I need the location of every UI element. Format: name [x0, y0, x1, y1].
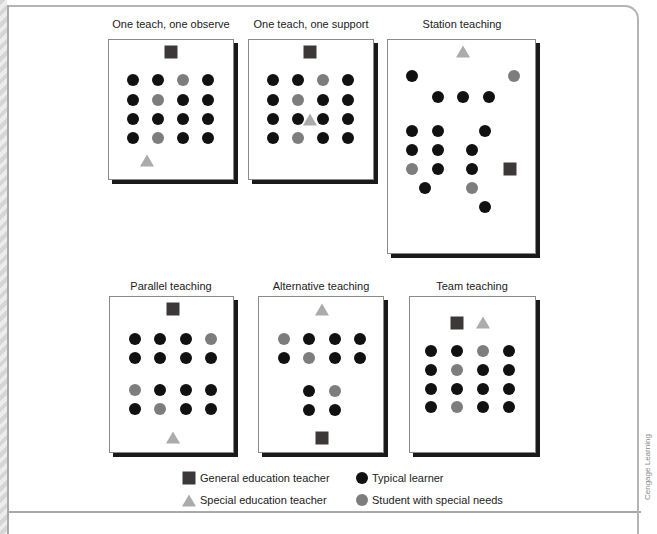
typical-learner-dot: [425, 401, 437, 413]
typical-learner-dot: [180, 333, 192, 345]
typical-learner-dot: [205, 384, 217, 396]
legend-gray-circle-icon: [356, 494, 368, 506]
typical-learner-dot: [425, 383, 437, 395]
typical-learner-dot: [329, 352, 341, 364]
general-teacher-square-icon: [304, 46, 317, 59]
typical-learner-dot: [477, 364, 489, 376]
typical-learner-dot: [317, 94, 329, 106]
legend-label-special-needs: Student with special needs: [372, 494, 503, 506]
typical-learner-dot: [154, 384, 166, 396]
student-special-needs-dot: [152, 132, 164, 144]
typical-learner-dot: [329, 404, 341, 416]
student-special-needs-dot: [292, 132, 304, 144]
student-special-needs-dot: [451, 364, 463, 376]
typical-learner-dot: [406, 70, 418, 82]
right-border-line: [637, 511, 639, 534]
typical-learner-dot: [432, 91, 444, 103]
student-special-needs-dot: [451, 401, 463, 413]
typical-learner-dot: [479, 125, 491, 137]
student-special-needs-dot: [303, 352, 315, 364]
legend-black-circle-icon: [356, 472, 368, 484]
typical-learner-dot: [342, 113, 354, 125]
special-teacher-triangle-icon: [315, 303, 329, 315]
typical-learner-dot: [202, 94, 214, 106]
typical-learner-dot: [342, 74, 354, 86]
panel-5: [258, 296, 384, 453]
typical-learner-dot: [202, 113, 214, 125]
typical-learner-dot: [425, 345, 437, 357]
special-teacher-triangle-icon: [166, 431, 180, 443]
typical-learner-dot: [425, 364, 437, 376]
typical-learner-dot: [503, 383, 515, 395]
student-special-needs-dot: [177, 74, 189, 86]
typical-learner-dot: [127, 94, 139, 106]
typical-learner-dot: [503, 364, 515, 376]
general-teacher-square-icon: [316, 432, 329, 445]
typical-learner-dot: [152, 74, 164, 86]
panel-title: Parallel teaching: [130, 280, 211, 292]
typical-learner-dot: [303, 333, 315, 345]
typical-learner-dot: [129, 333, 141, 345]
typical-learner-dot: [419, 182, 431, 194]
general-teacher-square-icon: [165, 46, 178, 59]
typical-learner-dot: [177, 94, 189, 106]
typical-learner-dot: [432, 144, 444, 156]
typical-learner-dot: [466, 144, 478, 156]
bottom-border-line: [9, 511, 641, 513]
typical-learner-dot: [180, 403, 192, 415]
student-special-needs-dot: [508, 70, 520, 82]
special-teacher-triangle-icon: [303, 113, 317, 125]
typical-learner-dot: [457, 91, 469, 103]
student-special-needs-dot: [477, 345, 489, 357]
student-special-needs-dot: [129, 384, 141, 396]
typical-learner-dot: [432, 125, 444, 137]
typical-learner-dot: [477, 383, 489, 395]
typical-learner-dot: [129, 403, 141, 415]
typical-learner-dot: [129, 352, 141, 364]
typical-learner-dot: [303, 385, 315, 397]
panel-4: [109, 296, 234, 453]
typical-learner-dot: [342, 94, 354, 106]
typical-learner-dot: [205, 403, 217, 415]
typical-learner-dot: [267, 94, 279, 106]
student-special-needs-dot: [292, 94, 304, 106]
typical-learner-dot: [154, 352, 166, 364]
typical-learner-dot: [202, 132, 214, 144]
typical-learner-dot: [292, 74, 304, 86]
typical-learner-dot: [267, 74, 279, 86]
student-special-needs-dot: [329, 385, 341, 397]
panel-title: Team teaching: [436, 280, 508, 292]
student-special-needs-dot: [152, 94, 164, 106]
typical-learner-dot: [267, 113, 279, 125]
typical-learner-dot: [406, 125, 418, 137]
student-special-needs-dot: [278, 333, 290, 345]
typical-learner-dot: [202, 74, 214, 86]
legend-label-special-teacher: Special education teacher: [200, 494, 327, 506]
typical-learner-dot: [479, 201, 491, 213]
student-special-needs-dot: [466, 182, 478, 194]
typical-learner-dot: [278, 352, 290, 364]
typical-learner-dot: [503, 401, 515, 413]
typical-learner-dot: [483, 91, 495, 103]
typical-learner-dot: [451, 345, 463, 357]
typical-learner-dot: [354, 333, 366, 345]
legend-label-general-teacher: General education teacher: [200, 472, 330, 484]
student-special-needs-dot: [317, 74, 329, 86]
panel-title: Alternative teaching: [273, 280, 370, 292]
student-special-needs-dot: [205, 333, 217, 345]
typical-learner-dot: [267, 132, 279, 144]
typical-learner-dot: [303, 404, 315, 416]
typical-learner-dot: [127, 132, 139, 144]
left-hatched-margin: [0, 0, 7, 534]
legend-label-typical-learner: Typical learner: [372, 472, 444, 484]
general-teacher-square-icon: [167, 303, 180, 316]
typical-learner-dot: [127, 113, 139, 125]
typical-learner-dot: [503, 345, 515, 357]
typical-learner-dot: [127, 74, 139, 86]
student-special-needs-dot: [406, 163, 418, 175]
typical-learner-dot: [451, 383, 463, 395]
typical-learner-dot: [466, 163, 478, 175]
student-special-needs-dot: [154, 403, 166, 415]
typical-learner-dot: [354, 352, 366, 364]
typical-learner-dot: [317, 132, 329, 144]
